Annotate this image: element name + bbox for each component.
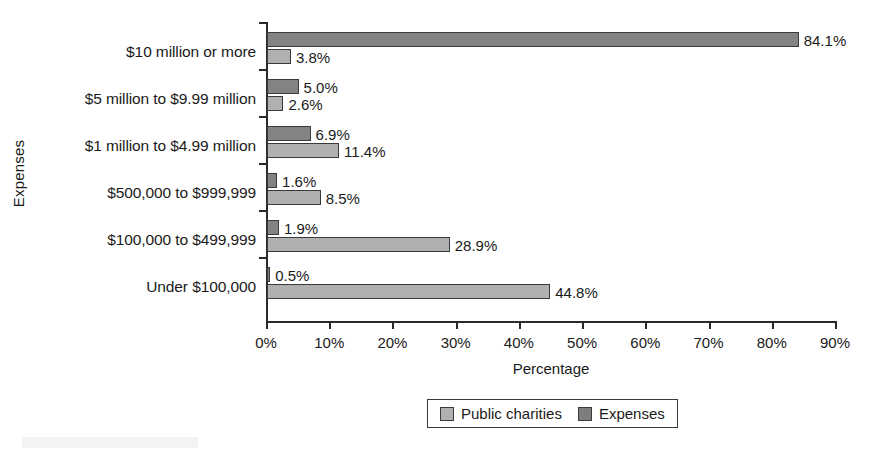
- legend-label-public-charities: Public charities: [461, 405, 562, 422]
- bar-expenses: [267, 79, 299, 94]
- x-tick-label: 60%: [610, 334, 680, 351]
- x-tick: [392, 321, 394, 329]
- bar-value-public-charities: 11.4%: [344, 144, 385, 159]
- plot-area: 0%10%20%30%40%50%60%70%80%90% 84.1%3.8%5…: [266, 22, 835, 322]
- legend-swatch-expenses: [578, 407, 592, 421]
- x-tick: [329, 321, 331, 329]
- y-tick: [259, 210, 267, 212]
- y-tick: [259, 116, 267, 118]
- bar-value-public-charities: 3.8%: [296, 50, 330, 65]
- bar-public-charities: [267, 284, 550, 299]
- x-tick-label: 50%: [547, 334, 617, 351]
- category-label: $100,000 to $499,999: [0, 231, 256, 249]
- legend-swatch-public-charities: [440, 407, 454, 421]
- x-axis-title: Percentage: [266, 360, 836, 377]
- bar-value-public-charities: 8.5%: [326, 191, 360, 206]
- bar-value-expenses: 0.5%: [275, 268, 309, 283]
- x-tick: [582, 321, 584, 329]
- bar-value-expenses: 1.6%: [282, 174, 316, 189]
- x-tick: [709, 321, 711, 329]
- y-tick: [259, 257, 267, 259]
- y-tick: [259, 69, 267, 71]
- x-axis-line: [266, 321, 836, 323]
- x-tick: [519, 321, 521, 329]
- legend: Public charities Expenses: [427, 399, 678, 428]
- category-label: $10 million or more: [0, 43, 256, 61]
- bar-value-public-charities: 28.9%: [455, 238, 498, 253]
- x-tick-label: 30%: [421, 334, 491, 351]
- legend-item-public-charities: Public charities: [440, 405, 562, 422]
- bar-value-public-charities: 2.6%: [288, 97, 322, 112]
- bar-expenses: [267, 267, 270, 282]
- y-axis-title: Expenses: [10, 94, 27, 254]
- legend-item-expenses: Expenses: [578, 405, 665, 422]
- x-tick-label: 0%: [231, 334, 301, 351]
- bar-public-charities: [267, 143, 339, 158]
- bar-public-charities: [267, 190, 321, 205]
- bar-public-charities: [267, 96, 283, 111]
- category-label: Under $100,000: [0, 278, 256, 296]
- bar-public-charities: [267, 237, 450, 252]
- x-tick-label: 70%: [674, 334, 744, 351]
- bar-expenses: [267, 32, 799, 47]
- bar-public-charities: [267, 49, 291, 64]
- x-tick-label: 40%: [484, 334, 554, 351]
- bar-value-expenses: 6.9%: [316, 127, 350, 142]
- category-label: $1 million to $4.99 million: [0, 137, 256, 155]
- x-tick: [645, 321, 647, 329]
- bar-value-expenses: 1.9%: [284, 221, 318, 236]
- x-tick-label: 90%: [800, 334, 870, 351]
- x-tick-label: 10%: [294, 334, 364, 351]
- x-tick: [456, 321, 458, 329]
- category-label: $500,000 to $999,999: [0, 184, 256, 202]
- x-tick-label: 80%: [737, 334, 807, 351]
- bar-expenses: [267, 126, 311, 141]
- x-tick: [835, 321, 837, 329]
- y-tick: [259, 22, 267, 24]
- bar-value-public-charities: 44.8%: [555, 285, 598, 300]
- watermark-artifact: [22, 437, 198, 448]
- category-label: $5 million to $9.99 million: [0, 90, 256, 108]
- x-tick-label: 20%: [357, 334, 427, 351]
- bar-expenses: [267, 173, 277, 188]
- bar-value-expenses: 5.0%: [304, 80, 338, 95]
- x-tick: [772, 321, 774, 329]
- bar-value-expenses: 84.1%: [804, 33, 847, 48]
- x-tick: [266, 321, 268, 329]
- y-tick: [259, 163, 267, 165]
- legend-label-expenses: Expenses: [599, 405, 665, 422]
- bar-expenses: [267, 220, 279, 235]
- bar-chart: Expenses $10 million or more$5 million t…: [0, 0, 878, 458]
